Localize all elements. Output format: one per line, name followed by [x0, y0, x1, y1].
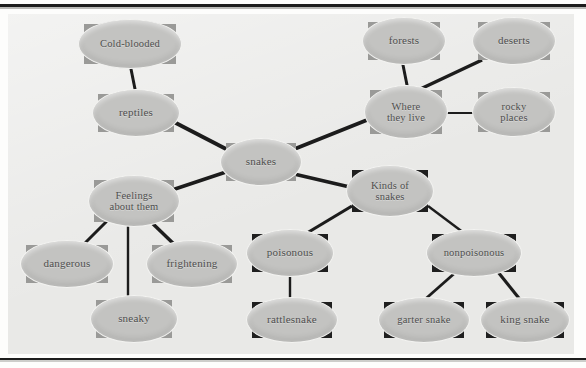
node-bubble-garter-snake: garter snake — [378, 297, 470, 343]
node-label-nonpoisonous: nonpoisonous — [444, 247, 505, 259]
node-label-where-live: Where they live — [387, 101, 425, 124]
mindmap-canvas: Cold-bloodedforestsdesertsreptilesWhere … — [0, 0, 586, 368]
node-bubble-king-snake: king snake — [480, 297, 570, 343]
node-label-cold-blooded: Cold-blooded — [100, 38, 160, 50]
node-label-reptiles: reptiles — [119, 107, 153, 119]
node-bubble-sneaky: sneaky — [90, 295, 178, 343]
node-bubble-reptiles: reptiles — [92, 89, 180, 137]
node-reptiles[interactable]: reptiles — [98, 94, 174, 132]
node-label-poisonous: poisonous — [267, 247, 313, 259]
node-deserts[interactable]: deserts — [478, 22, 550, 60]
node-snakes[interactable]: snakes — [226, 143, 296, 181]
node-label-garter-snake: garter snake — [397, 314, 450, 326]
node-label-snakes: snakes — [246, 156, 277, 168]
node-bubble-kinds: Kinds of snakes — [346, 165, 434, 217]
node-forests[interactable]: forests — [368, 22, 440, 60]
bottom-rule-fade — [0, 360, 586, 362]
node-label-king-snake: king snake — [500, 314, 549, 326]
node-garter-snake[interactable]: garter snake — [384, 302, 464, 338]
node-label-kinds: Kinds of snakes — [371, 180, 409, 203]
node-label-sneaky: sneaky — [118, 313, 150, 325]
node-kinds[interactable]: Kinds of snakes — [352, 170, 428, 212]
top-rule-fade — [0, 7, 586, 9]
node-bubble-snakes: snakes — [220, 138, 302, 186]
node-frightening[interactable]: frightening — [152, 245, 232, 283]
node-label-frightening: frightening — [166, 258, 217, 270]
node-bubble-deserts: deserts — [472, 17, 556, 65]
node-bubble-rattlesnake: rattlesnake — [246, 297, 338, 343]
node-bubble-cold-blooded: Cold-blooded — [78, 19, 182, 69]
node-sneaky[interactable]: sneaky — [96, 300, 172, 338]
node-bubble-forests: forests — [362, 17, 446, 65]
node-label-deserts: deserts — [498, 35, 530, 47]
node-label-rocky-places: rocky places — [500, 101, 527, 124]
node-label-dangerous: dangerous — [43, 258, 90, 270]
node-bubble-poisonous: poisonous — [246, 229, 334, 277]
node-dangerous[interactable]: dangerous — [26, 245, 108, 283]
node-rattlesnake[interactable]: rattlesnake — [252, 302, 332, 338]
node-bubble-dangerous: dangerous — [20, 240, 114, 288]
node-bubble-where-live: Where they live — [364, 85, 448, 139]
node-king-snake[interactable]: king snake — [486, 302, 564, 338]
node-label-feelings: Feelings about them — [110, 190, 159, 213]
node-feelings[interactable]: Feelings about them — [94, 180, 174, 222]
node-bubble-rocky-places: rocky places — [472, 87, 556, 137]
node-rocky-places[interactable]: rocky places — [478, 92, 550, 132]
node-where-live[interactable]: Where they live — [370, 90, 442, 134]
node-poisonous[interactable]: poisonous — [252, 234, 328, 272]
node-label-forests: forests — [389, 35, 420, 47]
node-cold-blooded[interactable]: Cold-blooded — [84, 24, 176, 64]
node-bubble-nonpoisonous: nonpoisonous — [426, 229, 522, 277]
node-nonpoisonous[interactable]: nonpoisonous — [432, 234, 516, 272]
node-bubble-feelings: Feelings about them — [88, 175, 180, 227]
node-label-rattlesnake: rattlesnake — [267, 314, 317, 326]
node-bubble-frightening: frightening — [146, 240, 238, 288]
